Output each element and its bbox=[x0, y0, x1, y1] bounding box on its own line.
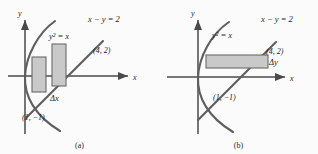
figure-root: y² = x x − y = 2 (4, 2) (1, −1) Δx x y (… bbox=[0, 0, 318, 154]
point-1-neg1-label-b: (1, −1) bbox=[213, 93, 236, 102]
panel-b: y² = x x − y = 2 (4, 2) (1, −1) Δy x y (… bbox=[159, 0, 318, 154]
curve-equation-label-a: y² = x bbox=[48, 31, 69, 41]
point-1-neg1-label-a: (1, −1) bbox=[22, 113, 45, 122]
point-4-2-label-b: (4, 2) bbox=[266, 47, 284, 56]
horizontal-strip bbox=[206, 55, 268, 68]
line-equation-label-a: x − y = 2 bbox=[87, 14, 121, 24]
panel-a-graph: y² = x x − y = 2 (4, 2) (1, −1) Δx x y bbox=[0, 0, 159, 154]
y-axis-label-b: y bbox=[190, 9, 195, 18]
delta-x-label: Δx bbox=[49, 93, 59, 103]
y-axis-arrowhead-icon bbox=[21, 20, 29, 30]
x-axis-label-b: x bbox=[289, 74, 294, 83]
delta-y-label: Δy bbox=[268, 57, 278, 67]
x-axis-b bbox=[167, 73, 285, 81]
vertical-strip-right bbox=[52, 44, 66, 86]
y-axis-arrowhead-icon bbox=[194, 20, 202, 30]
x-axis-label-a: x bbox=[132, 73, 137, 82]
x-axis-arrowhead-icon bbox=[275, 73, 285, 81]
panel-b-graph: y² = x x − y = 2 (4, 2) (1, −1) Δy x y bbox=[159, 0, 318, 154]
straight-line-b bbox=[198, 42, 276, 120]
line-equation-label-b: x − y = 2 bbox=[260, 14, 294, 24]
panel-b-caption: (b) bbox=[159, 141, 318, 150]
vertical-strip-left bbox=[32, 57, 46, 92]
y-axis-label-a: y bbox=[17, 9, 22, 18]
point-4-2-label-a: (4, 2) bbox=[93, 46, 111, 55]
panel-a-caption: (a) bbox=[0, 141, 159, 150]
x-axis-arrowhead-icon bbox=[118, 72, 128, 80]
curve-equation-label-b: y² = x bbox=[211, 30, 232, 40]
panel-a: y² = x x − y = 2 (4, 2) (1, −1) Δx x y (… bbox=[0, 0, 159, 154]
